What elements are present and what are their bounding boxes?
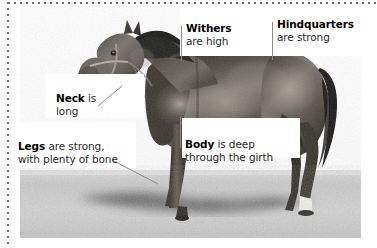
callout-hindquarters: Hindquarters are strong [277,18,354,43]
callout-legs: Legs are strong, with plenty of bone [18,140,118,165]
callout-withers-term: Withers [186,22,232,34]
leader-line-hindquarters [272,22,273,60]
callout-body-term: Body [185,138,214,150]
callout-withers: Withers are high [186,22,232,47]
callout-neck: Neck is long [56,92,96,117]
callout-body-text: is deep [217,138,254,150]
callout-hindquarters-text: are strong [277,31,330,43]
callout-body: Body is deep through the girth [185,138,273,163]
dotted-border-left [7,2,9,248]
callout-legs-term: Legs [18,140,45,152]
callout-withers-text: are high [186,35,228,47]
horse-conformation-figure: Withers are high Hindquarters are strong… [0,0,377,248]
callout-hindquarters-term: Hindquarters [277,18,354,30]
callout-neck-text: is [88,92,96,104]
callout-neck-term: Neck [56,92,85,104]
callout-body-text2: through the girth [185,151,273,163]
callout-legs-text2: with plenty of bone [18,153,118,165]
callout-legs-text: are strong, [48,140,104,152]
leader-line-body [180,117,181,148]
leader-line-withers [181,26,182,61]
dotted-border-top [8,2,377,4]
callout-neck-text2: long [56,105,78,117]
